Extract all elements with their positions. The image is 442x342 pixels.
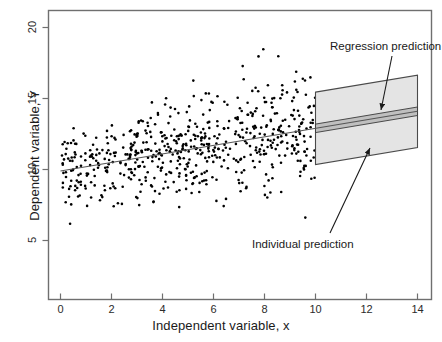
x-tick-label-4: 4 [148,303,177,315]
x-tick-label-12: 12 [352,303,381,315]
scatter-plot-figure: 0 2 4 6 8 10 12 14 5 10 15 20 Independen… [0,0,442,342]
x-tick-label-14: 14 [403,303,432,315]
y-tick-label-20: 20 [26,19,38,35]
x-tick-label-0: 0 [46,303,75,315]
regression-prediction-label: Regression prediction [330,40,441,52]
y-axis-ticks [43,28,49,241]
x-tick-label-8: 8 [250,303,279,315]
x-tick-label-6: 6 [199,303,228,315]
y-axis-title: Dependent variable, Y [27,36,42,276]
individual-prediction-label: Individual prediction [252,238,354,250]
x-axis-title: Independent variable, x [0,318,442,333]
x-tick-label-2: 2 [97,303,126,315]
x-tick-label-10: 10 [301,303,330,315]
